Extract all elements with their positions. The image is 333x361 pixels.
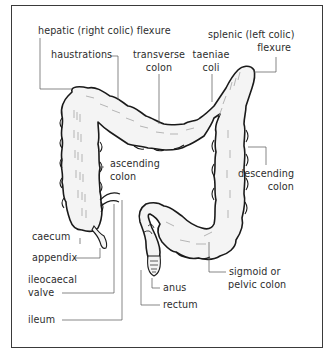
appendix-shape [92, 226, 107, 248]
label-taeniae-coli-line1: taeniae [190, 49, 232, 62]
label-haustrations: haustrations [51, 49, 112, 62]
label-ascending-colon-line2: colon [110, 171, 136, 184]
label-appendix: appendix [32, 252, 77, 265]
label-hepatic-flexure: hepatic (right colic) flexure [38, 25, 171, 38]
label-descending-colon-line2: colon [238, 181, 294, 194]
label-ascending-colon-line1: ascending [110, 158, 160, 171]
label-transverse-colon-line2: colon [130, 62, 188, 75]
label-rectum: rectum [163, 299, 198, 312]
label-ileocaecal-valve-line2: valve [28, 287, 54, 300]
label-ileum: ileum [28, 314, 55, 327]
label-transverse-colon-line1: transverse [130, 49, 188, 62]
label-anus: anus [163, 282, 186, 295]
label-ileocaecal-valve-line1: ileocaecal [28, 274, 77, 287]
label-taeniae-coli-line2: coli [190, 62, 232, 75]
label-sigmoid-colon-line1: sigmoid or [229, 266, 281, 279]
ileum-shape [100, 193, 120, 206]
label-descending-colon-line1: descending [238, 168, 294, 181]
label-splenic-flexure-line1: splenic (left colic) [208, 29, 291, 42]
label-sigmoid-colon-line2: pelvic colon [228, 279, 286, 292]
label-caecum: caecum [32, 231, 70, 244]
